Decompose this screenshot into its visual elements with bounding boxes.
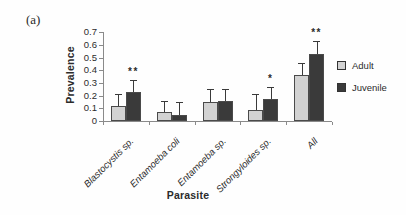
bar-adult [157, 112, 172, 121]
x-tick [332, 122, 333, 125]
x-tick [240, 122, 241, 125]
y-tick-label: 0.7 [71, 27, 97, 37]
error-bar [225, 89, 226, 100]
significance-marker: ** [121, 67, 145, 77]
y-tick-label: 0.4 [71, 65, 97, 75]
error-bar [179, 102, 180, 115]
y-tick [99, 32, 103, 33]
x-tick [149, 122, 150, 125]
bar-juvenile [218, 101, 233, 121]
x-axis-line [103, 121, 332, 122]
error-bar [164, 101, 165, 112]
y-axis-line [103, 32, 104, 121]
legend-item-adult: Adult [337, 60, 387, 71]
significance-marker: * [259, 74, 283, 84]
x-tick [195, 122, 196, 125]
bar-juvenile [172, 115, 187, 121]
y-tick [99, 96, 103, 97]
juvenile-swatch-icon [337, 83, 346, 92]
bar-juvenile [263, 99, 278, 121]
error-bar-cap [222, 89, 229, 90]
y-tick-label: 0 [71, 116, 97, 126]
figure-panel-a: (a) Prevalence Parasite 00.10.20.30.40.5… [0, 0, 406, 215]
bar-adult [111, 106, 126, 121]
y-tick [99, 108, 103, 109]
error-bar [271, 87, 272, 100]
error-bar-cap [176, 102, 183, 103]
y-tick-label: 0.1 [71, 103, 97, 113]
error-bar-cap [207, 89, 214, 90]
y-tick-label: 0.5 [71, 53, 97, 63]
category-label: All [305, 136, 320, 151]
error-bar [256, 94, 257, 109]
error-bar-cap [267, 87, 274, 88]
bar-juvenile [126, 92, 141, 121]
error-bar-cap [130, 80, 137, 81]
y-tick [99, 70, 103, 71]
error-bar-cap [252, 94, 259, 95]
y-tick-label: 0.3 [71, 78, 97, 88]
x-tick [103, 122, 104, 125]
legend-label-juvenile: Juvenile [352, 82, 387, 93]
y-tick [99, 45, 103, 46]
x-tick [286, 122, 287, 125]
error-bar [133, 80, 134, 91]
y-tick-label: 0.6 [71, 40, 97, 50]
error-bar-cap [161, 101, 168, 102]
category-label: Entamoeba coli [128, 136, 181, 189]
adult-swatch-icon [337, 61, 346, 70]
bar-adult [203, 102, 218, 121]
legend-label-adult: Adult [352, 60, 374, 71]
error-bar [302, 63, 303, 76]
error-bar [210, 89, 211, 102]
bar-adult [248, 110, 263, 121]
error-bar-cap [298, 63, 305, 64]
error-bar [317, 41, 318, 54]
y-tick-label: 0.2 [71, 91, 97, 101]
legend: Adult Juvenile [337, 60, 387, 104]
x-axis-title: Parasite [128, 189, 248, 201]
error-bar [118, 94, 119, 105]
legend-item-juvenile: Juvenile [337, 82, 387, 93]
error-bar-cap [313, 41, 320, 42]
y-tick [99, 83, 103, 84]
bar-adult [294, 75, 309, 121]
panel-label: (a) [26, 12, 40, 28]
bar-juvenile [309, 54, 324, 121]
y-tick [99, 58, 103, 59]
significance-marker: ** [305, 28, 329, 38]
error-bar-cap [115, 94, 122, 95]
